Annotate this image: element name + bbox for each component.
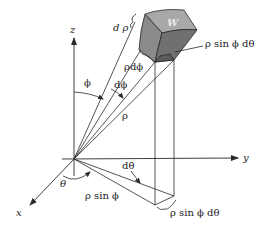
d-theta-arc (131, 171, 140, 183)
phi-label: ϕ (84, 77, 91, 88)
rho-sin-phi-d-theta-bottom-label: ρ sin ϕ dθ (170, 207, 219, 218)
spherical-volume-element-diagram: z y x d ρ W ρ sin ϕ dθ ρdϕ ϕ dϕ ρ dθ θ ρ… (0, 0, 266, 232)
theta-label: θ (60, 178, 66, 189)
rho-sin-phi-d-theta-top-label: ρ sin ϕ dθ (205, 38, 254, 49)
x-axis-label: x (16, 207, 22, 218)
rho-d-phi-label: ρdϕ (124, 61, 143, 72)
y-axis-label: y (242, 152, 249, 163)
d-phi-label: dϕ (114, 79, 127, 90)
d-phi-arc (111, 89, 123, 98)
projection-lines (155, 60, 174, 205)
x-axis (30, 159, 74, 205)
d-rho-label: d ρ (113, 22, 129, 33)
phi-arc (74, 92, 103, 99)
z-axis-label: z (69, 24, 76, 35)
rho-sin-phi-label: ρ sin ϕ (85, 190, 119, 201)
region-w-label: W (167, 17, 180, 28)
theta-arc (63, 172, 90, 179)
d-theta-label: dθ (122, 160, 134, 171)
rho-label: ρ (122, 110, 128, 121)
y-axis (62, 158, 238, 159)
